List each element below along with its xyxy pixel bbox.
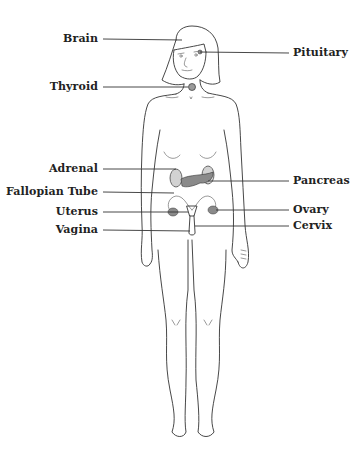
label-pancreas: Pancreas <box>293 175 350 187</box>
label-cervix: Cervix <box>293 220 332 232</box>
label-ovary: Ovary <box>293 204 329 216</box>
label-fallopian-tube: Fallopian Tube <box>6 186 98 198</box>
label-vagina: Vagina <box>56 224 98 236</box>
vagina-organ <box>189 216 195 235</box>
label-adrenal: Adrenal <box>49 163 98 175</box>
label-brain: Brain <box>63 33 98 45</box>
body-diagram <box>0 0 358 464</box>
legs <box>158 240 226 437</box>
leader-lines <box>103 39 289 231</box>
organs <box>168 50 218 235</box>
label-pituitary: Pituitary <box>293 47 348 59</box>
label-uterus: Uterus <box>56 206 98 218</box>
thyroid-gland <box>189 84 196 91</box>
uterus-organ <box>187 206 197 216</box>
label-thyroid: Thyroid <box>50 81 98 93</box>
pancreas-organ <box>181 172 213 187</box>
adrenal-left <box>170 169 182 187</box>
